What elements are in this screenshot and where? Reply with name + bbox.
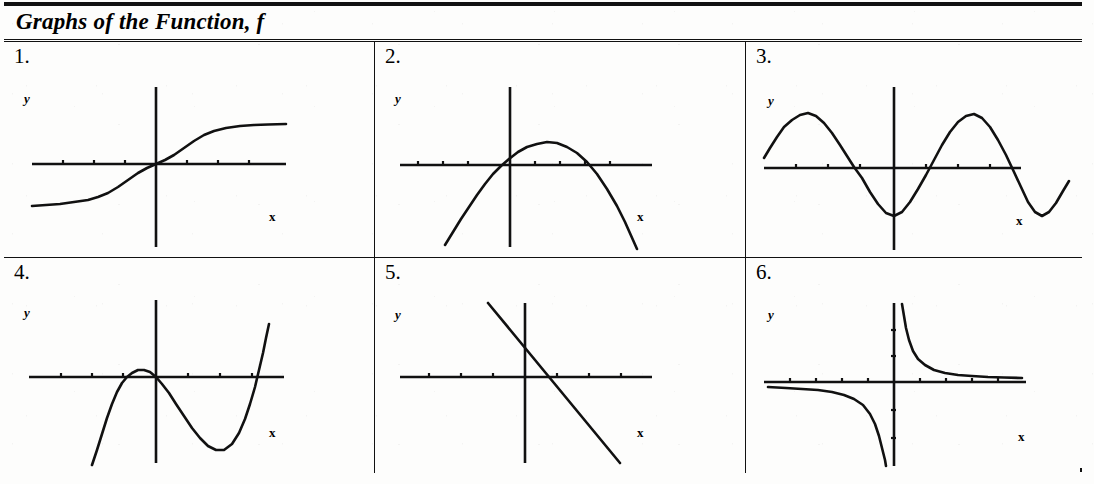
graph-cell-5[interactable]: 5. y x [375,258,746,473]
graphs-grid: 1. y x [4,42,1082,472]
graph-plot-3 [746,42,1080,257]
graph-plot-6 [746,258,1080,473]
page-title: Graphs of the Function, f [16,9,264,35]
curve-parabola-2 [445,142,637,249]
graph-cell-4[interactable]: 4. y x [4,258,375,473]
graph-plot-1 [4,42,375,257]
curve-sine-3 [764,113,1069,216]
table-header-row: Graphs of the Function, f [4,6,1082,42]
graph-cell-6[interactable]: 6. y x [746,258,1080,473]
curve-cubic-4 [92,324,269,465]
graph-plot-5 [375,258,746,473]
worksheet-page: Graphs of the Function, f 1. y x [0,0,1094,484]
graph-cell-1[interactable]: 1. y x [4,42,375,257]
graph-cell-3[interactable]: 3. y x [746,42,1080,257]
curve-hyperbola-positive-6 [902,304,1022,378]
graph-row-top: 1. y x [4,42,1082,258]
graph-plot-2 [375,42,746,257]
graphs-table: Graphs of the Function, f 1. y x [4,2,1082,472]
graph-plot-4 [4,258,375,473]
graph-row-bottom: 4. y x [4,258,1082,473]
curve-line-5 [488,303,620,463]
graph-cell-2[interactable]: 2. y x [375,42,746,257]
curve-hyperbola-negative-6 [768,387,886,466]
